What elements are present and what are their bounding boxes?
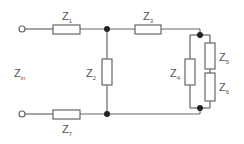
impedance-z5 [205,43,215,69]
label-z7: Z7 [62,123,73,137]
impedance-z1 [53,25,80,34]
junction-node-bottom-right [197,105,203,111]
junction-node-bottom-mid [104,111,110,117]
label-z5: Z5 [219,51,230,65]
impedance-z6 [205,73,215,101]
label-zin: Zin [14,67,25,81]
label-z4: Z4 [170,67,181,81]
label-z6: Z6 [219,81,230,95]
impedance-z4 [185,59,195,85]
input-terminal-top [19,26,25,32]
impedance-z3 [135,25,161,34]
circuit-diagram: Z1 Z2 Z3 Z4 Z5 Z6 Z7 Zin [0,0,244,144]
junction-node-top-mid [104,26,110,32]
impedance-z7 [53,110,80,119]
junction-node-top-right [197,32,203,38]
label-z2: Z2 [86,67,97,81]
input-terminal-bottom [19,111,25,117]
impedance-z2 [102,59,112,85]
label-z1: Z1 [62,10,73,24]
label-z3: Z3 [143,10,154,24]
